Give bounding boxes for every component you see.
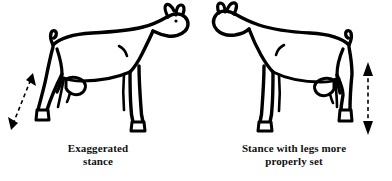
rear-hoof bbox=[339, 110, 352, 121]
caption-exaggerated-stance: Exaggerated stance bbox=[0, 142, 196, 167]
eye-dot bbox=[174, 19, 177, 22]
caption-line-2: properly set bbox=[196, 155, 392, 168]
panel-proper-stance: Stance with legs more properly set bbox=[196, 0, 392, 181]
rear-hoof bbox=[36, 110, 49, 120]
caption-line-1: Exaggerated bbox=[0, 142, 196, 155]
caption-proper-stance: Stance with legs more properly set bbox=[196, 142, 392, 167]
front-leg-near-front-edge bbox=[139, 66, 143, 122]
shoulder-crease bbox=[119, 46, 127, 56]
stance-arrow-head-lower bbox=[8, 117, 18, 130]
front-hoof-near bbox=[131, 122, 145, 131]
front-leg-near-back-edge bbox=[270, 72, 273, 122]
front-leg-near-front-edge bbox=[260, 66, 264, 122]
caption-line-2: stance bbox=[0, 155, 196, 168]
stance-arrow-shaft bbox=[13, 79, 31, 124]
goat-stance-figure: Exaggerated stance bbox=[0, 0, 392, 181]
front-leg-near-back-edge bbox=[130, 72, 133, 122]
rear-leg-back-edge bbox=[349, 47, 352, 110]
front-leg-far bbox=[279, 75, 280, 111]
front-leg-far bbox=[123, 74, 124, 110]
panel-exaggerated-stance: Exaggerated stance bbox=[0, 0, 196, 181]
goat-drawing-proper bbox=[196, 0, 392, 142]
teat-path bbox=[67, 93, 70, 102]
front-hoof-near bbox=[258, 122, 272, 131]
caption-line-1: Stance with legs more bbox=[196, 142, 392, 155]
head-path bbox=[153, 14, 188, 36]
stance-arrow-head-upper bbox=[26, 73, 36, 86]
stance-arrow-head-lower bbox=[363, 121, 373, 135]
shoulder-crease bbox=[276, 45, 284, 55]
teat-path bbox=[330, 94, 333, 103]
neck-underline-path bbox=[249, 29, 273, 72]
neck-underline-path bbox=[130, 31, 153, 72]
goat-drawing-exaggerated bbox=[0, 0, 196, 142]
head-path bbox=[213, 11, 249, 35]
stance-arrow-head-upper bbox=[363, 62, 373, 76]
